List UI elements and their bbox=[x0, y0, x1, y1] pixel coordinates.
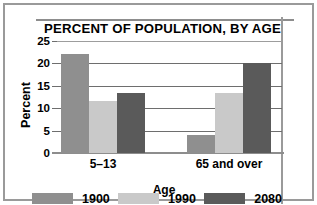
y-axis-tick-label: 15 bbox=[37, 80, 50, 92]
chart-figure: PERCENT OF POPULATION, BY AGE Source: U.… bbox=[0, 0, 317, 204]
legend-label: 1990 bbox=[168, 192, 196, 204]
y-axis-tick-label: 20 bbox=[37, 57, 50, 69]
gridline bbox=[57, 41, 282, 42]
legend-item: 1990 bbox=[118, 192, 196, 204]
y-axis-tick-mark bbox=[52, 86, 57, 87]
y-axis-tick-label: 25 bbox=[37, 35, 50, 47]
x-axis-group-label: 5–13 bbox=[47, 157, 159, 171]
legend-swatch bbox=[32, 193, 73, 205]
y-axis-tick-label: 5 bbox=[44, 125, 50, 137]
bar bbox=[117, 93, 145, 153]
y-axis-tick-label: 10 bbox=[37, 102, 50, 114]
legend-item: 2080 bbox=[204, 192, 282, 204]
legend-swatch bbox=[204, 193, 245, 205]
legend-label: 2080 bbox=[254, 192, 282, 204]
legend-swatch bbox=[118, 193, 159, 205]
bar bbox=[61, 54, 89, 153]
bar bbox=[215, 93, 243, 153]
y-axis-tick-mark bbox=[52, 131, 57, 132]
y-axis-tick-mark bbox=[52, 63, 57, 64]
bar bbox=[89, 101, 117, 153]
legend-item: 1900 bbox=[32, 192, 110, 204]
chart-title: PERCENT OF POPULATION, BY AGE bbox=[30, 21, 295, 36]
bar bbox=[243, 63, 271, 153]
bar bbox=[187, 135, 215, 153]
plot-area: 05101520255–1365 and over bbox=[57, 41, 282, 153]
figure-inner: PERCENT OF POPULATION, BY AGE Source: U.… bbox=[10, 10, 307, 194]
y-axis-tick-mark bbox=[52, 41, 57, 42]
y-axis-tick-mark bbox=[52, 108, 57, 109]
y-axis-label: Percent bbox=[19, 58, 33, 152]
source-attribution: Source: U.S. Bureau of the Census bbox=[289, 0, 305, 10]
x-axis-group-label: 65 and over bbox=[173, 157, 285, 171]
chart-legend: 190019902080 bbox=[32, 192, 282, 204]
figure-frame: PERCENT OF POPULATION, BY AGE Source: U.… bbox=[3, 3, 314, 201]
legend-label: 1900 bbox=[82, 192, 110, 204]
